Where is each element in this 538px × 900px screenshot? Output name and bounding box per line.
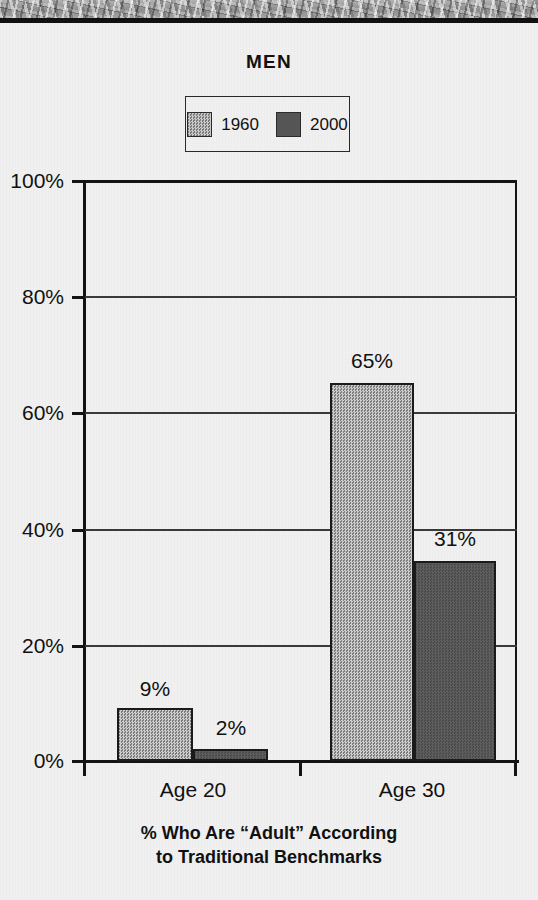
bar-2000-age20 [193, 749, 268, 761]
chart-figure: MEN 1960 2000 100% 80% 60% 40% 20% 0% [0, 0, 538, 900]
bar-1960-age20 [117, 708, 193, 761]
legend-item-2000: 2000 [276, 112, 348, 137]
y-tick-60 [72, 412, 85, 415]
legend-label-1960: 1960 [221, 116, 259, 133]
chart-caption-line-1: % Who Are “Adult” According [0, 822, 538, 846]
x-tick-end [514, 762, 517, 776]
legend-item-1960: 1960 [187, 112, 259, 137]
y-axis-label-0: 0% [34, 749, 64, 773]
legend-swatch-1960 [187, 112, 212, 137]
bar-value-1960-age20: 9% [115, 677, 195, 701]
bar-value-2000-age30: 31% [415, 527, 495, 551]
legend-label-2000: 2000 [310, 116, 348, 133]
bar-2000-age30 [414, 561, 496, 761]
bar-value-1960-age30: 65% [332, 349, 412, 373]
x-tick-start [83, 762, 86, 776]
y-tick-100 [72, 180, 85, 183]
bar-1960-age30 [330, 383, 414, 761]
legend-swatch-2000 [276, 112, 301, 137]
y-tick-40 [72, 529, 85, 532]
chart-title: MEN [0, 51, 538, 73]
y-tick-80 [72, 296, 85, 299]
chart-caption-line-2: to Traditional Benchmarks [0, 846, 538, 870]
chart-legend: 1960 2000 [185, 96, 350, 152]
bar-value-2000-age20: 2% [191, 716, 271, 740]
x-tick-mid [299, 762, 302, 776]
y-tick-20 [72, 645, 85, 648]
chart-caption: % Who Are “Adult” According to Tradition… [0, 822, 538, 870]
y-axis-label-40: 40% [22, 518, 64, 542]
gridline-60 [84, 412, 517, 414]
x-axis-category-age30: Age 30 [362, 778, 462, 802]
y-axis-label-60: 60% [22, 401, 64, 425]
header-divider [0, 18, 538, 23]
x-axis-category-age20: Age 20 [143, 778, 243, 802]
y-axis-label-20: 20% [22, 634, 64, 658]
marbled-stone-strip-icon [0, 0, 538, 18]
gridline-80 [84, 296, 517, 298]
y-axis-label-100: 100% [10, 169, 64, 193]
y-axis-label-80: 80% [22, 285, 64, 309]
